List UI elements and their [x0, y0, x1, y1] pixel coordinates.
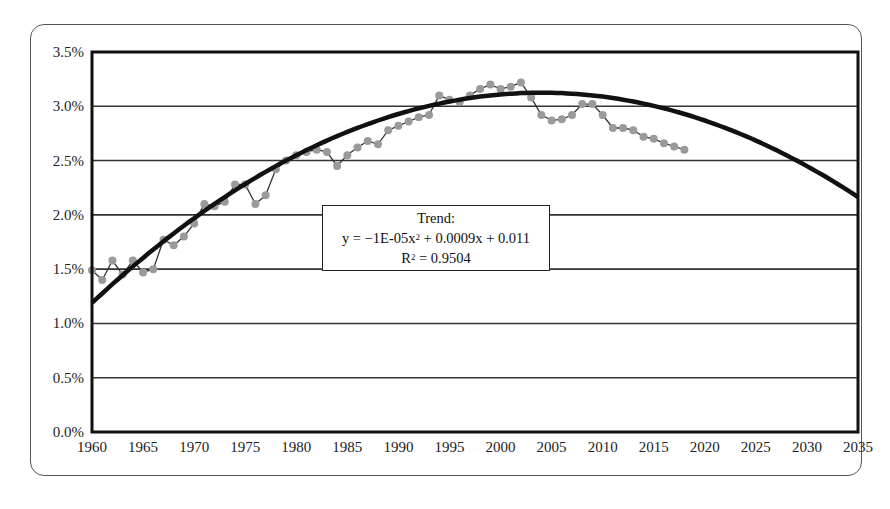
data-point [670, 142, 678, 150]
x-tick-label: 2030 [792, 439, 822, 455]
data-point [435, 91, 443, 99]
data-point [251, 200, 259, 208]
x-tick-label: 2015 [639, 439, 669, 455]
data-point [323, 148, 331, 156]
data-point [619, 124, 627, 132]
data-point [507, 83, 515, 91]
y-tick-label: 1.0% [53, 315, 84, 331]
data-point [139, 268, 147, 276]
y-tick-label: 1.5% [53, 261, 84, 277]
data-point [374, 140, 382, 148]
x-tick-label: 2000 [486, 439, 516, 455]
x-tick-label: 1960 [77, 439, 107, 455]
data-point [180, 233, 188, 241]
x-tick-label: 2010 [588, 439, 618, 455]
data-point [108, 256, 116, 264]
data-point [364, 137, 372, 145]
x-tick-label: 2035 [843, 439, 873, 455]
y-tick-label: 3.0% [53, 98, 84, 114]
data-point [343, 151, 351, 159]
data-point [548, 116, 556, 124]
data-point [170, 241, 178, 249]
x-tick-label: 2020 [690, 439, 720, 455]
data-point [568, 111, 576, 119]
data-point [588, 100, 596, 108]
trend-curve [92, 93, 858, 303]
x-tick-label: 2025 [741, 439, 771, 455]
data-point [394, 122, 402, 130]
y-tick-label: 2.0% [53, 207, 84, 223]
x-tick-label: 1965 [128, 439, 158, 455]
data-point [497, 85, 505, 93]
data-point [384, 126, 392, 134]
y-tick-label: 0.0% [53, 424, 84, 440]
data-point [537, 111, 545, 119]
data-point [609, 124, 617, 132]
x-tick-label: 1975 [230, 439, 260, 455]
data-point [558, 115, 566, 123]
data-point [680, 146, 688, 154]
x-tick-label: 1980 [281, 439, 311, 455]
data-point [629, 126, 637, 134]
trend-annotation-box: Trend: y = −1E-05x2 + 0.0009x + 0.011 R2… [322, 205, 550, 271]
data-point [578, 100, 586, 108]
x-tick-label: 1990 [383, 439, 413, 455]
data-point [640, 133, 648, 141]
data-point [476, 85, 484, 93]
x-axis-tick-labels: 1960196519701975198019851990199520002005… [77, 439, 873, 455]
data-point [354, 144, 362, 152]
data-point [262, 191, 270, 199]
trend-r-squared: R2 = 0.9504 [323, 248, 549, 268]
data-point [333, 162, 341, 170]
data-point [486, 81, 494, 89]
data-point [425, 111, 433, 119]
data-point [415, 113, 423, 121]
x-tick-label: 1970 [179, 439, 209, 455]
data-point [650, 135, 658, 143]
x-tick-label: 1995 [434, 439, 464, 455]
y-tick-label: 3.5% [53, 44, 84, 60]
data-point [517, 78, 525, 86]
x-tick-label: 1985 [332, 439, 362, 455]
y-tick-label: 2.5% [53, 153, 84, 169]
x-tick-label: 2005 [537, 439, 567, 455]
data-point [98, 276, 106, 284]
y-tick-label: 0.5% [53, 370, 84, 386]
y-axis-tick-labels: 0.0%0.5%1.0%1.5%2.0%2.5%3.0%3.5% [53, 44, 84, 440]
trend-equation: y = −1E-05x2 + 0.0009x + 0.011 [323, 228, 549, 248]
data-point [149, 265, 157, 273]
data-point [405, 117, 413, 125]
data-point [660, 139, 668, 147]
trend-title: Trend: [323, 208, 549, 228]
data-point [599, 111, 607, 119]
